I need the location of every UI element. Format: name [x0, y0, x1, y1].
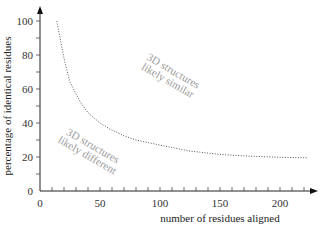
annotation-likely-different: 3D structureslikely different: [56, 124, 124, 177]
x-tick-label: 100: [152, 197, 169, 209]
chart: 050100150200 020406080100 3D structuresl…: [0, 0, 326, 232]
y-axis-ticks: 020406080100: [17, 15, 41, 197]
y-axis-label: percentage of identical residues: [1, 37, 13, 176]
y-tick-label: 40: [22, 117, 34, 129]
annotations: 3D structureslikely similar3D structures…: [56, 51, 202, 177]
x-tick-label: 200: [272, 197, 289, 209]
annotation-likely-similar: 3D structureslikely similar: [140, 51, 203, 100]
x-axis-ticks: 050100150200: [37, 187, 304, 209]
x-tick-label: 150: [212, 197, 229, 209]
y-tick-label: 80: [22, 49, 34, 61]
y-axis-arrow-icon: [37, 6, 43, 14]
x-axis-arrow-icon: [310, 188, 318, 194]
axes: [37, 6, 318, 194]
x-tick-label: 0: [37, 197, 43, 209]
y-tick-label: 0: [28, 185, 34, 197]
x-tick-label: 50: [95, 197, 107, 209]
y-tick-label: 100: [17, 15, 34, 27]
x-axis-label: number of residues aligned: [160, 212, 280, 224]
y-tick-label: 20: [22, 151, 34, 163]
y-tick-label: 60: [22, 83, 34, 95]
